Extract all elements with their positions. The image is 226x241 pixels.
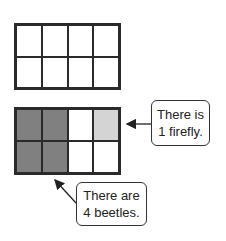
beetles-callout-line1: There are [83,187,139,204]
beetles-callout: There are 4 beetles. [76,182,147,226]
firefly-callout: There is 1 firefly. [151,100,210,146]
firefly-callout-line1: There is [157,106,204,123]
firefly-callout-line2: 1 firefly. [158,123,203,140]
beetles-arrow-icon [55,180,76,203]
beetles-callout-line2: 4 beetles. [83,204,139,221]
